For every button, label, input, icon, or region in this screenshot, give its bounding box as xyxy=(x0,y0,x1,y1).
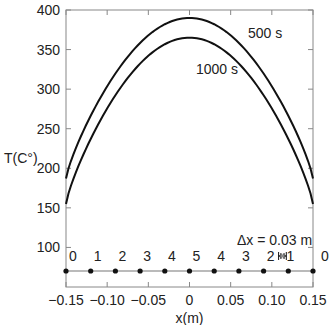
y-axis-label: T(C°) xyxy=(4,150,38,166)
x-tick-label: −0.05 xyxy=(131,292,167,308)
x-tick-label: 0.15 xyxy=(299,292,326,308)
node-dot xyxy=(162,268,167,273)
x-axis-label: x(m) xyxy=(176,310,204,325)
y-tick-label: 200 xyxy=(37,160,61,176)
y-tick-label: 100 xyxy=(37,239,61,255)
x-tick-label: 0.10 xyxy=(258,292,285,308)
node-label: 4 xyxy=(168,248,176,264)
x-tick-label: 0.05 xyxy=(217,292,244,308)
node-dot xyxy=(261,268,266,273)
node-label: 2 xyxy=(267,248,275,264)
node-dot xyxy=(187,268,192,273)
annotation-1000s: 1000 s xyxy=(196,61,238,77)
node-label: 4 xyxy=(217,248,225,264)
node-label: 1 xyxy=(94,248,102,264)
node-dot xyxy=(113,268,118,273)
node-label: 2 xyxy=(119,248,127,264)
node-dot xyxy=(310,268,315,273)
node-label: 0 xyxy=(321,248,329,264)
node-dot xyxy=(212,268,217,273)
node-dot xyxy=(138,268,143,273)
node-dot xyxy=(88,268,93,273)
node-label: 1 xyxy=(286,248,294,264)
node-dot xyxy=(286,268,291,273)
node-label: 3 xyxy=(143,248,151,264)
node-label: 0 xyxy=(69,248,77,264)
x-tick-label: −0.10 xyxy=(89,292,125,308)
node-dot xyxy=(63,268,68,273)
node-label: 5 xyxy=(193,248,201,264)
node-label: 3 xyxy=(242,248,250,264)
curves xyxy=(66,18,313,204)
plot-frame: 100150200250300350400−0.15−0.10−0.0500.0… xyxy=(37,2,327,308)
curve-500s xyxy=(66,18,313,179)
y-tick-label: 350 xyxy=(37,42,61,58)
annotation-delta-x: Δx = 0.03 m xyxy=(237,232,312,248)
y-tick-label: 300 xyxy=(37,81,61,97)
y-tick-label: 150 xyxy=(37,200,61,216)
temperature-chart: 100150200250300350400−0.15−0.10−0.0500.0… xyxy=(0,0,332,325)
curve-1000s xyxy=(66,38,313,204)
x-tick-label: 0 xyxy=(186,292,194,308)
node-row: 01234543210 xyxy=(63,248,329,274)
y-tick-label: 400 xyxy=(37,2,61,18)
y-tick-label: 250 xyxy=(37,121,61,137)
node-dot xyxy=(236,268,241,273)
annotation-500s: 500 s xyxy=(248,25,282,41)
x-tick-label: −0.15 xyxy=(48,292,84,308)
